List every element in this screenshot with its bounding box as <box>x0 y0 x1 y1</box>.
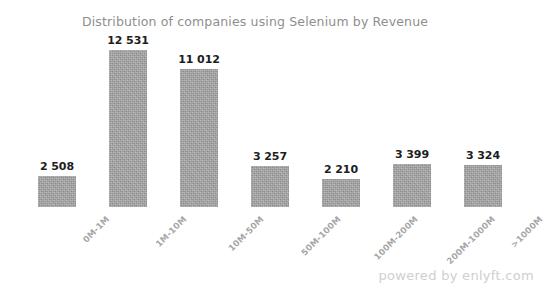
bar-group <box>38 176 76 207</box>
chart-container: Distribution of companies using Selenium… <box>0 0 546 295</box>
bar[interactable] <box>393 164 431 207</box>
watermark-credit: powered by enlyft.com <box>378 268 534 283</box>
bar-value-label: 3 324 <box>450 149 516 162</box>
bar-value-label: 3 399 <box>379 148 445 161</box>
bar-value-label: 3 257 <box>237 150 303 163</box>
x-axis-tick-label: 200M-1000M <box>445 214 497 266</box>
x-axis-tick-label: 1M-10M <box>154 214 189 249</box>
x-axis-tick-label: 100M-200M <box>372 214 420 262</box>
bar-group <box>180 69 218 207</box>
bar-value-label: 2 508 <box>24 160 90 173</box>
bar[interactable] <box>38 176 76 207</box>
x-axis-tick-label: 50M-100M <box>299 214 343 258</box>
bar-value-label: 11 012 <box>166 53 232 66</box>
bar[interactable] <box>464 165 502 207</box>
bar-value-label: 12 531 <box>95 34 161 47</box>
bar[interactable] <box>251 166 289 207</box>
x-axis-tick-label: 10M-50M <box>226 214 265 253</box>
bar[interactable] <box>322 179 360 207</box>
bar-group <box>464 165 502 207</box>
bar-group <box>322 179 360 207</box>
bar-value-label: 2 210 <box>308 163 374 176</box>
bar[interactable] <box>109 50 147 207</box>
bar-group <box>109 50 147 207</box>
bar-group <box>393 164 431 207</box>
plot-area: 2 5080M-1M12 5311M-10M11 01210M-50M3 257… <box>0 0 546 295</box>
x-axis-tick-label: >1000M <box>509 214 545 250</box>
bar[interactable] <box>180 69 218 207</box>
bar-group <box>251 166 289 207</box>
x-axis-tick-label: 0M-1M <box>81 214 112 245</box>
